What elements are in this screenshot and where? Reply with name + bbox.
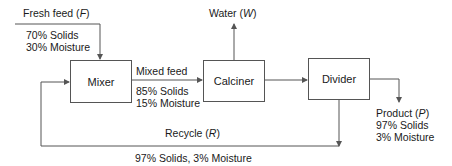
divider-label: Divider: [322, 73, 356, 85]
product-arrow: [369, 79, 399, 102]
calciner-label: Calciner: [214, 75, 254, 87]
recycle-composition: 97% Solids, 3% Moisture: [135, 152, 252, 164]
mixed-feed-label: Mixed feed: [136, 65, 187, 77]
water-label: Water (W): [209, 7, 256, 19]
fresh-feed-label: Fresh feed (F): [23, 7, 90, 19]
mixer-box: Mixer: [70, 60, 132, 103]
recycle-label: Recycle (R): [165, 127, 220, 139]
divider-box: Divider: [308, 58, 370, 100]
mixer-label: Mixer: [88, 76, 115, 88]
calciner-box: Calciner: [203, 60, 265, 102]
mixed-feed-composition: 85% Solids 15% Moisture: [136, 85, 200, 109]
fresh-feed-composition: 70% Solids 30% Moisture: [26, 29, 90, 53]
product-label: Product (P) 97% Solids 3% Moisture: [376, 107, 434, 143]
